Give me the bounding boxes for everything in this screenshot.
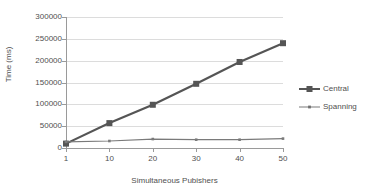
x-axis-tick-label: 30	[192, 155, 201, 163]
x-axis-tick-labels: 11020304050	[66, 155, 283, 167]
y-axis-tick-label: 150000	[35, 79, 62, 87]
data-point	[152, 138, 155, 141]
y-axis-tick-label: 100000	[35, 100, 62, 108]
data-point	[195, 138, 198, 141]
data-point	[238, 138, 241, 141]
legend-swatch-spanning	[299, 102, 320, 111]
series-line-central	[66, 43, 283, 143]
x-axis-title: Simultaneous Pubishers	[66, 176, 283, 185]
chart-legend: Central Spanning	[299, 82, 369, 118]
y-axis-tick-label: 200000	[35, 57, 62, 65]
x-axis-tick-label: 50	[279, 155, 288, 163]
y-axis-title: Time (ms)	[4, 35, 13, 95]
data-point	[106, 120, 112, 126]
y-axis-tick-label: 300000	[35, 13, 62, 21]
data-point	[280, 40, 286, 46]
data-point	[282, 137, 285, 140]
series-line-spanning	[66, 139, 283, 142]
y-axis-tick-label: 250000	[35, 35, 62, 43]
legend-item-spanning[interactable]: Spanning	[299, 100, 369, 113]
x-axis-tick-label: 10	[105, 155, 114, 163]
x-axis-tick-label: 40	[235, 155, 244, 163]
legend-label-central: Central	[323, 84, 349, 93]
data-point	[108, 140, 111, 143]
x-axis-tick-label: 20	[148, 155, 157, 163]
series-layer	[66, 17, 283, 148]
legend-swatch-central	[299, 84, 320, 93]
y-axis-tick-label: 50000	[40, 122, 62, 130]
data-point	[150, 102, 156, 108]
legend-label-spanning: Spanning	[323, 102, 357, 111]
data-point	[65, 141, 68, 144]
x-axis-line	[66, 148, 284, 149]
data-point	[237, 59, 243, 65]
data-point	[193, 81, 199, 87]
line-chart: 050000100000150000200000250000300000 Tim…	[0, 0, 370, 195]
legend-item-central[interactable]: Central	[299, 82, 369, 95]
x-axis-tick-label: 1	[64, 155, 68, 163]
